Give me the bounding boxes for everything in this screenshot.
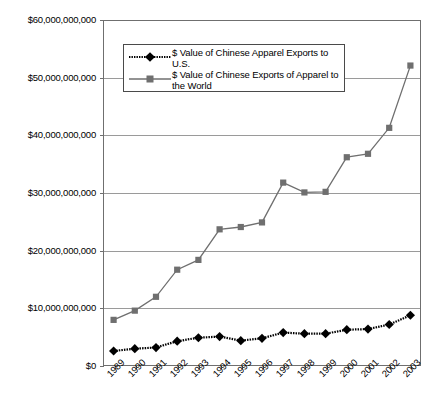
data-point-diamond — [173, 337, 182, 346]
data-point-diamond — [363, 324, 372, 333]
data-point-square — [238, 224, 244, 230]
legend-entry-us: $ Value of Chinese Apparel Exports to U.… — [128, 48, 340, 69]
chart-legend: $ Value of Chinese Apparel Exports to U.… — [123, 44, 345, 92]
data-point-diamond — [236, 336, 245, 345]
data-point-diamond — [257, 334, 266, 343]
legend-label-us: $ Value of Chinese Apparel Exports to U.… — [172, 48, 328, 69]
data-point-diamond — [151, 343, 160, 352]
data-point-square — [365, 151, 371, 157]
data-point-diamond — [130, 344, 139, 353]
data-point-square — [344, 154, 350, 160]
data-point-square — [259, 219, 265, 225]
data-point-square — [386, 125, 392, 131]
data-point-square — [280, 180, 286, 186]
data-point-diamond — [109, 346, 118, 355]
data-point-square — [217, 226, 223, 232]
data-point-square — [153, 294, 159, 300]
data-point-square — [174, 267, 180, 273]
data-point-square — [301, 189, 307, 195]
data-point-square — [111, 317, 117, 323]
data-point-diamond — [194, 333, 203, 342]
data-point-diamond — [300, 329, 309, 338]
square-line-key-icon — [128, 71, 172, 83]
data-point-diamond — [279, 328, 288, 337]
data-point-square — [323, 189, 329, 195]
legend-entry-world: $ Value of Chinese Exports of Apparel to… — [128, 70, 340, 91]
data-point-diamond — [215, 332, 224, 341]
data-point-diamond — [385, 320, 394, 329]
data-point-diamond — [406, 311, 415, 320]
data-point-diamond — [321, 329, 330, 338]
data-point-square — [407, 62, 413, 68]
data-point-diamond — [342, 325, 351, 334]
data-point-square — [195, 257, 201, 263]
line-chart: $0$10,000,000,000$20,000,000,000$30,000,… — [0, 0, 447, 407]
series-line-world — [114, 66, 411, 320]
legend-label-world: $ Value of Chinese Exports of Apparel to… — [172, 70, 338, 91]
data-point-square — [132, 308, 138, 314]
diamond-line-key-icon — [128, 49, 172, 61]
